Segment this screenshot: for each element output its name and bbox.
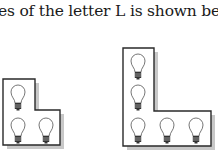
l-shape-figures <box>0 0 218 157</box>
large-L-figure <box>123 48 215 150</box>
small-L-figure <box>3 79 64 149</box>
